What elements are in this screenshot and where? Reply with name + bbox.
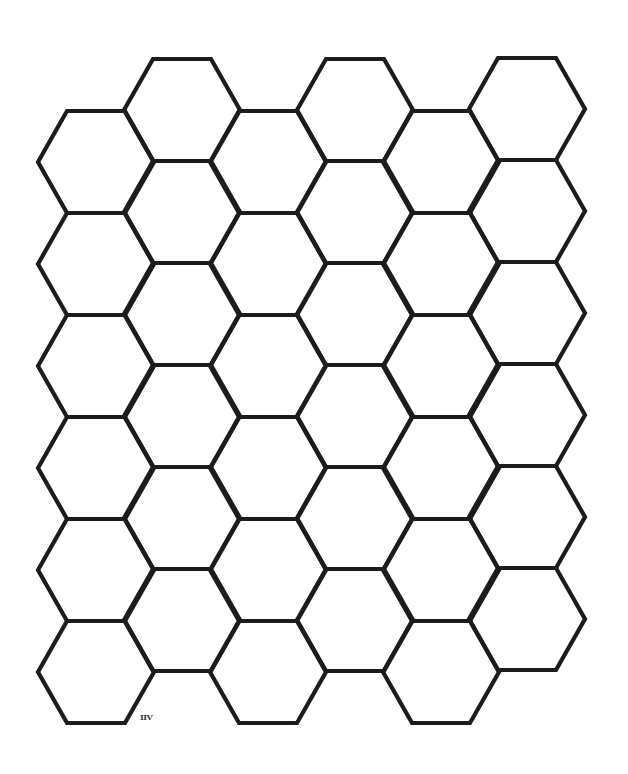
hexagon-cell (38, 417, 154, 519)
hexagon-cell (38, 111, 154, 213)
hexagon-cell (124, 59, 240, 161)
hexagon-cell (469, 58, 585, 160)
hexagon-cell (383, 315, 499, 417)
hexagon-cell (383, 519, 499, 621)
hexagon-cell (469, 262, 585, 364)
hexagon-cell (38, 213, 154, 315)
hexagon-cell (469, 466, 585, 568)
hexagon-cell (38, 621, 154, 723)
hexagon-cell (383, 111, 499, 213)
hexagon-cell (383, 213, 499, 315)
hexagon-cell (124, 467, 240, 569)
corner-mark-label: IIV (140, 713, 152, 721)
hexagon-cell (124, 161, 240, 263)
hexagon-cell (469, 160, 585, 262)
hexagon-cell (383, 621, 499, 723)
hexagon-cell (469, 568, 585, 670)
hexagon-cell (38, 315, 154, 417)
hexagon-cell (38, 519, 154, 621)
hexagon-cell (383, 417, 499, 519)
hexagon-cell (124, 365, 240, 467)
hexagon-layer (38, 58, 585, 723)
hexagon-cell (124, 263, 240, 365)
honeycomb-grid (0, 0, 628, 774)
hexagon-cell (469, 364, 585, 466)
hexagon-cell (124, 569, 240, 671)
